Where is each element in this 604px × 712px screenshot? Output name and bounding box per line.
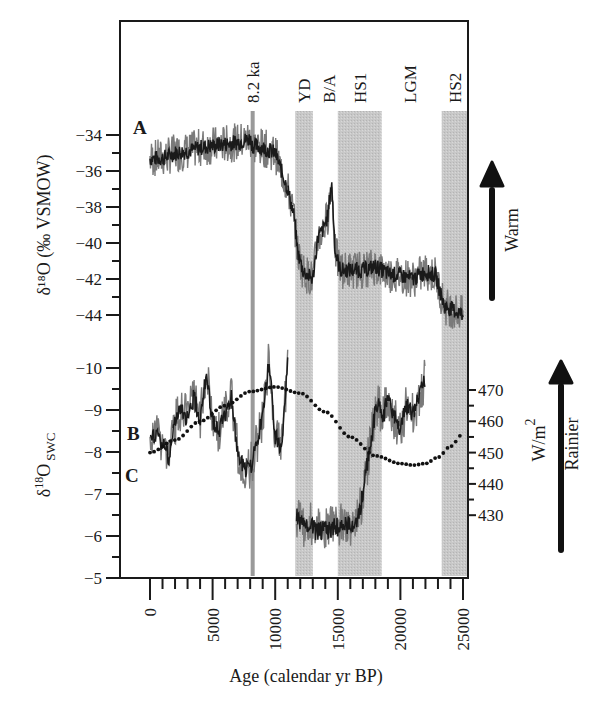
x-tick-label: 20000: [391, 608, 410, 651]
curve-c-dot: [305, 395, 309, 399]
curve-c-dot: [450, 444, 454, 448]
event-label: LGM: [401, 65, 420, 103]
curve-c-dot: [280, 386, 284, 390]
y-tick-label-right: 470: [478, 381, 504, 400]
curve-c-dot: [202, 419, 206, 423]
curve-c-dot: [251, 390, 255, 394]
x-tick-label: 10000: [266, 608, 285, 651]
curve-c-dot: [297, 391, 301, 395]
curve-c-dot: [330, 414, 334, 418]
delta-symbol: δ: [34, 489, 54, 497]
y-tick-label-b: −5: [84, 569, 102, 588]
curve-c-dot: [235, 397, 239, 401]
curve-c-dot: [338, 426, 342, 430]
curve-c-dot: [446, 446, 450, 450]
y-tick-label-a: −40: [75, 234, 102, 253]
y-tick-label-b: −8: [84, 443, 102, 462]
y-tick-label-b: −6: [84, 527, 102, 546]
curve-c-dot: [346, 435, 350, 439]
curve-c-dot: [326, 411, 330, 415]
curve-c-dot: [388, 459, 392, 463]
curve-c-dot: [198, 419, 202, 423]
curve-c-dot: [152, 450, 156, 454]
y-tick-label-b: −9: [84, 401, 102, 420]
event-band-hs2: [442, 111, 468, 576]
curve-c-dot: [194, 421, 198, 425]
subscript-swc: SWC: [43, 433, 58, 461]
curve-c-dot: [342, 431, 346, 435]
curve-c-dot: [247, 390, 251, 394]
y-tick-label-b: −7: [84, 485, 103, 504]
chart-labels: 8.2 kaYDB/AHS1LGMHS2: [244, 61, 465, 103]
curve-c-dot: [189, 425, 193, 429]
curve-c-dot: [268, 386, 272, 390]
y-tick-label-a: −36: [75, 162, 102, 181]
y-axis-title-right: W/m2: [523, 419, 549, 462]
curve-c-dot: [272, 385, 276, 389]
curve-c-dot: [441, 451, 445, 455]
warm-arrow-icon: [481, 162, 503, 298]
event-label: HS1: [351, 73, 370, 103]
y-axis-title-a: δ¹⁸O (‰ VSMOW): [34, 155, 55, 296]
x-tick-label: 15000: [329, 608, 348, 651]
w-per-m-text: W/m: [529, 426, 549, 462]
curve-c-dot: [375, 454, 379, 458]
curve-c-dot: [309, 399, 313, 403]
y-tick-label-a: −42: [75, 270, 102, 289]
frame-border: [120, 21, 468, 578]
curve-c-dot: [301, 392, 305, 396]
panel-label-a: A: [133, 117, 147, 138]
y-tick-label-right: 460: [478, 412, 504, 431]
curve-c-dot: [165, 442, 169, 446]
curve-c-dot: [318, 407, 322, 411]
x-tick-label: 0: [141, 608, 160, 617]
panel-label-b: B: [127, 423, 140, 444]
curve-c-dot: [384, 457, 388, 461]
y-tick-label-right: 430: [478, 506, 504, 525]
curve-c-dot: [417, 463, 421, 467]
curve-c-dot: [173, 438, 177, 442]
y-axis-title-b: δ18OSWC: [32, 433, 58, 498]
curve-c-dot: [400, 462, 404, 466]
curve-c-dot: [260, 388, 264, 392]
curve-c-dot: [177, 437, 181, 441]
arrow-label-rainier: Rainier: [562, 418, 582, 471]
y-tick-label-a: −44: [75, 306, 102, 325]
curve-c-dot: [322, 410, 326, 414]
svg-text:W/m2: W/m2: [523, 419, 549, 462]
plot-frame: [120, 21, 468, 578]
curve-c-dot: [351, 435, 355, 439]
curve-c-dot: [181, 434, 185, 438]
curve-c-dot: [161, 445, 165, 449]
event-line-8-2ka: [251, 111, 255, 576]
curve-c-dot: [355, 438, 359, 442]
curve-c-dot: [454, 440, 458, 444]
curve-c-dot: [437, 455, 441, 459]
curve-c-dot: [169, 439, 173, 443]
curve-c-dot: [264, 387, 268, 391]
arrow-label-warm: Warm: [502, 208, 522, 252]
x-axis-title: Age (calendar yr BP): [229, 666, 382, 687]
curve-c-dot: [214, 408, 218, 412]
curve-c-dot: [289, 389, 293, 393]
curve-c-dot: [284, 388, 288, 392]
paleoclimate-chart: −34−36−38−40−42−44−10−9−8−7−6−5470460450…: [0, 0, 604, 712]
curve-c-dot: [458, 434, 462, 438]
curve-c-dot: [359, 442, 363, 446]
curve-c-dot: [367, 451, 371, 455]
y-tick-label-right: 440: [478, 475, 504, 494]
curve-c-dot: [313, 403, 317, 407]
curve-c-dot: [404, 462, 408, 466]
curve-c-dot: [276, 385, 280, 389]
curve-c-dot: [231, 401, 235, 405]
x-tick-label: 25000: [454, 608, 473, 651]
y-tick-label-right: 450: [478, 444, 504, 463]
curve-c-dot: [371, 453, 375, 457]
curve-c-dot: [239, 394, 243, 398]
curve-c-dot: [206, 416, 210, 420]
curve-c-dot: [433, 456, 437, 460]
panel-label-c: C: [125, 465, 139, 486]
event-label: B/A: [320, 74, 339, 103]
curve-c-dot: [425, 461, 429, 465]
event-label: 8.2 ka: [244, 61, 263, 103]
